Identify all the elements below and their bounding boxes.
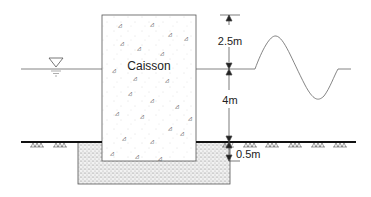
svg-text:◿: ◿ <box>118 22 122 28</box>
svg-text:◿: ◿ <box>133 75 137 81</box>
svg-text:◿: ◿ <box>184 35 188 41</box>
svg-text:◿: ◿ <box>168 31 172 37</box>
svg-text:◿: ◿ <box>135 153 139 159</box>
svg-text:◿: ◿ <box>150 97 154 103</box>
svg-text:◿: ◿ <box>158 155 162 161</box>
water-level <box>21 58 102 76</box>
dim-label-bottom: 0.5m <box>236 148 260 160</box>
water-level-icon <box>49 58 63 67</box>
svg-text:◿: ◿ <box>137 45 141 51</box>
caisson-diagram: ◿◿◿ ◿◿◿ ◿◿◿ ◿◿◿ ◿◿◿ ◿◿◿ ◿◿◿ ◿◿ Caisson <box>0 0 371 197</box>
dim-label-mid: 4m <box>222 94 237 106</box>
svg-text:◿: ◿ <box>128 90 132 96</box>
svg-text:◿: ◿ <box>160 50 164 56</box>
svg-text:◿: ◿ <box>112 67 116 73</box>
svg-text:◿: ◿ <box>150 138 154 144</box>
dim-label-top: 2.5m <box>218 35 242 47</box>
svg-text:◿: ◿ <box>115 110 119 116</box>
svg-text:◿: ◿ <box>150 21 154 27</box>
svg-text:◿: ◿ <box>175 103 179 109</box>
caisson-label: Caisson <box>127 59 170 73</box>
svg-text:◿: ◿ <box>165 77 169 83</box>
svg-text:◿: ◿ <box>120 40 124 46</box>
svg-text:◿: ◿ <box>168 125 172 131</box>
svg-text:◿: ◿ <box>110 150 114 156</box>
svg-text:◿: ◿ <box>140 113 144 119</box>
caisson-body: ◿◿◿ ◿◿◿ ◿◿◿ ◿◿◿ ◿◿◿ ◿◿◿ ◿◿◿ ◿◿ Caisson <box>102 15 196 161</box>
svg-text:◿: ◿ <box>188 115 192 121</box>
svg-text:◿: ◿ <box>180 130 184 136</box>
svg-text:◿: ◿ <box>122 135 126 141</box>
